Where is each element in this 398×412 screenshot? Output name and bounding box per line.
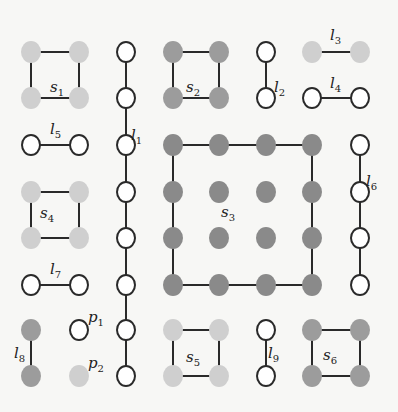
- label-subscript: 1: [136, 135, 142, 146]
- open-node: [22, 275, 40, 295]
- label-subscript: 1: [58, 87, 64, 98]
- label-subscript: 3: [335, 35, 341, 46]
- open-node: [22, 135, 40, 155]
- label-l7: l7: [50, 260, 61, 280]
- filled-node-light: [21, 87, 41, 109]
- label-s6: s6: [323, 346, 337, 366]
- label-p1: p1: [88, 308, 104, 328]
- filled-node-light: [350, 41, 370, 63]
- label-l8: l8: [14, 344, 25, 364]
- open-node: [70, 135, 88, 155]
- filled-node-light: [163, 365, 183, 387]
- filled-node-light: [69, 181, 89, 203]
- label-l4: l4: [330, 74, 341, 94]
- filled-node-dark: [163, 134, 183, 156]
- label-subscript: 5: [194, 357, 200, 368]
- filled-node-dark: [163, 227, 183, 249]
- label-subscript: 8: [19, 353, 25, 364]
- filled-node-dark: [209, 227, 229, 249]
- label-subscript: 2: [98, 363, 104, 374]
- open-node: [70, 320, 88, 340]
- label-subscript: 1: [98, 317, 104, 328]
- filled-node-mid: [209, 87, 229, 109]
- graph-diagram: s1l1s2l2l3l4l5s3l6s4l7l8p1p2s5l9s6: [0, 0, 398, 412]
- filled-node-light: [21, 41, 41, 63]
- filled-node-mid: [21, 319, 41, 341]
- filled-node-mid: [302, 365, 322, 387]
- label-subscript: 6: [331, 355, 337, 366]
- open-node: [70, 275, 88, 295]
- filled-node-dark: [256, 134, 276, 156]
- diagram-canvas: s1l1s2l2l3l4l5s3l6s4l7l8p1p2s5l9s6: [0, 0, 398, 412]
- label-s3: s3: [221, 203, 235, 223]
- label-s2: s2: [186, 78, 200, 98]
- open-node: [117, 182, 135, 202]
- open-node: [351, 228, 369, 248]
- filled-node-dark: [302, 227, 322, 249]
- filled-node-mid: [350, 319, 370, 341]
- open-node: [303, 88, 321, 108]
- filled-node-light: [209, 365, 229, 387]
- filled-node-light: [163, 319, 183, 341]
- label-l3: l3: [330, 26, 341, 46]
- label-subscript: 6: [371, 181, 377, 192]
- open-node: [117, 275, 135, 295]
- label-l5: l5: [50, 120, 61, 140]
- open-node: [351, 135, 369, 155]
- filled-node-mid: [163, 87, 183, 109]
- open-node: [117, 366, 135, 386]
- open-node: [257, 88, 275, 108]
- filled-node-light: [69, 41, 89, 63]
- filled-node-dark: [302, 274, 322, 296]
- label-p2: p2: [88, 354, 104, 374]
- filled-node-dark: [163, 181, 183, 203]
- filled-node-mid: [350, 365, 370, 387]
- open-node: [351, 88, 369, 108]
- filled-node-light: [21, 227, 41, 249]
- label-l2: l2: [274, 78, 285, 98]
- filled-node-dark: [209, 181, 229, 203]
- filled-node-dark: [302, 181, 322, 203]
- label-subscript: 9: [273, 353, 279, 364]
- label-l1: l1: [131, 126, 142, 146]
- label-s5: s5: [186, 348, 200, 368]
- open-node: [117, 88, 135, 108]
- filled-node-dark: [302, 134, 322, 156]
- open-node: [117, 228, 135, 248]
- filled-node-light: [209, 319, 229, 341]
- filled-node-light: [69, 365, 89, 387]
- open-node: [117, 42, 135, 62]
- open-node: [351, 275, 369, 295]
- filled-node-mid: [209, 41, 229, 63]
- open-node: [117, 320, 135, 340]
- filled-node-mid: [163, 41, 183, 63]
- filled-node-light: [69, 227, 89, 249]
- label-subscript: 4: [48, 213, 54, 224]
- filled-node-dark: [256, 181, 276, 203]
- label-subscript: 3: [229, 212, 235, 223]
- filled-node-dark: [256, 227, 276, 249]
- filled-node-dark: [209, 274, 229, 296]
- label-subscript: 5: [55, 129, 61, 140]
- filled-node-dark: [209, 134, 229, 156]
- filled-node-mid: [21, 365, 41, 387]
- filled-node-light: [21, 181, 41, 203]
- open-node: [257, 42, 275, 62]
- label-l6: l6: [366, 172, 377, 192]
- label-l9: l9: [268, 344, 279, 364]
- label-subscript: 7: [55, 269, 61, 280]
- open-node: [257, 366, 275, 386]
- filled-node-light: [302, 41, 322, 63]
- label-subscript: 4: [335, 83, 341, 94]
- filled-node-dark: [256, 274, 276, 296]
- filled-node-mid: [302, 319, 322, 341]
- open-node: [257, 320, 275, 340]
- label-s4: s4: [40, 204, 54, 224]
- filled-node-light: [69, 87, 89, 109]
- label-subscript: 2: [194, 87, 200, 98]
- label-s1: s1: [50, 78, 64, 98]
- label-subscript: 2: [279, 87, 285, 98]
- labels-layer: s1l1s2l2l3l4l5s3l6s4l7l8p1p2s5l9s6: [14, 26, 377, 374]
- filled-node-dark: [163, 274, 183, 296]
